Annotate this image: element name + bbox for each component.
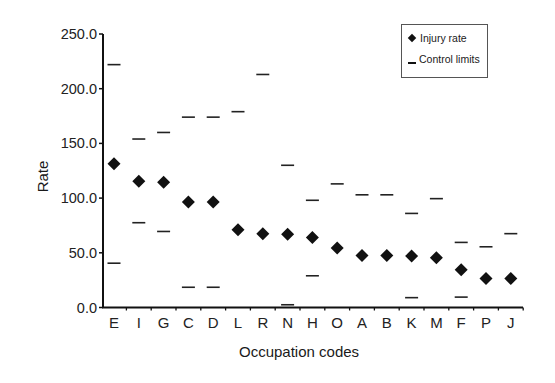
legend-item-injury-rate: Injury rate [408,32,467,44]
x-tick-label: O [331,314,343,331]
injury-rate-point [207,195,220,208]
x-tick-label: L [234,314,242,331]
legend-label: Control limits [419,53,480,65]
y-axis-label: Rate [34,157,51,197]
x-tick-label: A [357,314,367,331]
x-tick-label: E [109,314,119,331]
x-tick-label: F [457,314,466,331]
x-axis: EIGCDLRNHOABKMFPJ [102,308,523,331]
x-tick-label: R [257,314,268,331]
legend-item-control-limits: Control limits [408,53,480,65]
injury-rate-point [380,249,393,262]
x-tick-label: C [183,314,194,331]
x-axis-label: Occupation codes [239,343,359,360]
y-axis: 0.050.0100.0150.0200.0250.0 [61,26,103,316]
dash-marker-icon [408,62,416,64]
x-tick-label: D [208,314,219,331]
injury-rate-point [455,263,468,276]
x-tick-label: H [307,314,318,331]
injury-rate-point [405,250,418,263]
x-tick-label: I [137,314,141,331]
y-tick-label: 150.0 [61,135,97,151]
injury-rate-point [281,228,294,241]
injury-rate-point [480,272,493,285]
injury-rate-point [232,223,245,236]
injury-rate-point [132,175,145,188]
x-tick-label: B [382,314,392,331]
injury-rate-point [356,249,369,262]
y-tick-label: 250.0 [61,26,97,42]
x-tick-label: M [430,314,443,331]
injury-rate-point [306,231,319,244]
injury-rate-point [108,157,121,170]
injury-rate-point [256,227,269,240]
injury-rate-point [157,176,170,189]
x-tick-label: J [507,314,515,331]
y-tick-label: 50.0 [69,245,97,261]
x-tick-label: K [407,314,417,331]
diamond-marker-icon [408,34,416,42]
injury-rate-point [430,251,443,264]
injury-rate-point [331,241,344,254]
x-tick-label: P [481,314,491,331]
y-tick-label: 0.0 [77,300,97,316]
injury-rate-point [182,195,195,208]
legend: Injury rate Control limits [401,24,488,78]
injury-rate-point [504,272,517,285]
y-tick-label: 200.0 [61,81,97,97]
data-points [108,65,518,305]
x-tick-label: G [158,314,170,331]
legend-label: Injury rate [420,32,467,44]
x-tick-label: N [282,314,293,331]
y-tick-label: 100.0 [61,190,97,206]
